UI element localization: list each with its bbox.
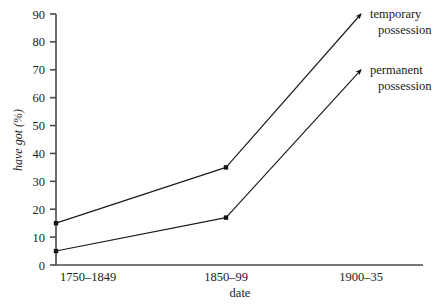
x-tick-label-1: 1850–99 xyxy=(204,270,248,284)
series-0-point-1 xyxy=(224,165,228,169)
y-tick-label-40: 40 xyxy=(33,147,46,161)
y-axis: 0102030405060708090 xyxy=(33,8,57,273)
x-axis: 1750–18491850–991900–35 xyxy=(56,265,423,284)
y-axis-tick-labels: 0102030405060708090 xyxy=(33,8,46,273)
x-tick-label-2: 1900–35 xyxy=(339,270,383,284)
x-tick-label-0: 1750–1849 xyxy=(60,270,116,284)
line-chart-figure: 0102030405060708090 1750–18491850–991900… xyxy=(0,0,440,305)
series-1-segment-0 xyxy=(56,218,226,251)
y-tick-label-10: 10 xyxy=(33,231,46,245)
y-axis-title: have got (%) xyxy=(11,109,25,171)
y-tick-label-80: 80 xyxy=(33,35,46,49)
legend-label-1-line2: possession xyxy=(378,79,432,93)
series-1-point-1 xyxy=(224,215,228,219)
series-0-segment-0 xyxy=(56,167,226,223)
y-tick-label-50: 50 xyxy=(33,119,46,133)
x-axis-tick-labels: 1750–18491850–991900–35 xyxy=(60,270,383,284)
y-tick-label-60: 60 xyxy=(33,91,46,105)
y-tick-label-70: 70 xyxy=(33,63,46,77)
legend-label-0-line2: possession xyxy=(378,23,432,37)
y-axis-ticks xyxy=(50,14,56,265)
legend-label-0-line1: temporary xyxy=(370,7,422,21)
series-0-point-0 xyxy=(54,221,58,225)
y-tick-label-20: 20 xyxy=(33,203,46,217)
chart-plot-area: 0102030405060708090 1750–18491850–991900… xyxy=(0,0,440,305)
chart-legend: temporarypossessionpermanentpossession xyxy=(370,7,432,93)
x-axis-title: date xyxy=(230,286,251,300)
series-layer xyxy=(54,14,361,253)
y-tick-label-90: 90 xyxy=(33,8,46,22)
y-tick-label-0: 0 xyxy=(39,259,45,273)
series-1-point-0 xyxy=(54,249,58,253)
y-tick-label-30: 30 xyxy=(33,175,46,189)
legend-label-1-line1: permanent xyxy=(370,63,423,77)
